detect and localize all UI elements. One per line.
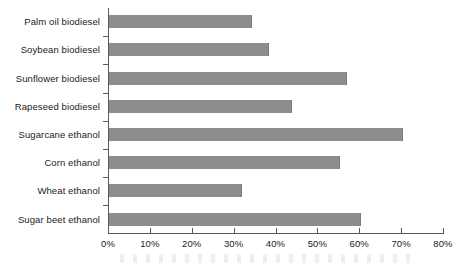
bar (108, 213, 361, 226)
bar (108, 43, 269, 56)
x-axis-tick-label: 50% (297, 238, 337, 249)
bar (108, 15, 252, 28)
bar (108, 184, 242, 197)
y-axis-tick (103, 121, 108, 122)
x-axis-tick (234, 228, 235, 234)
y-axis-line (108, 8, 109, 234)
x-axis-tick-label: 80% (423, 238, 457, 249)
x-axis-tick-label: 60% (339, 238, 379, 249)
x-axis-tick (359, 228, 360, 234)
x-axis-tick-label: 70% (381, 238, 421, 249)
y-axis-tick (103, 93, 108, 94)
category-label: Palm oil biodiesel (0, 16, 100, 27)
category-label: Soybean biodiesel (0, 44, 100, 55)
x-axis-tick-label: 40% (256, 238, 296, 249)
category-label: Sunflower biodiesel (0, 73, 100, 84)
bar (108, 156, 340, 169)
x-axis-tick (108, 228, 109, 234)
bar (108, 100, 292, 113)
y-axis-tick (103, 149, 108, 150)
category-axis: Palm oil biodieselSoybean biodieselSunfl… (0, 8, 104, 233)
x-axis-tick-label: 10% (130, 238, 170, 249)
category-label: Rapeseed biodiesel (0, 101, 100, 112)
x-axis-tick (401, 228, 402, 234)
y-axis-tick (103, 177, 108, 178)
category-label: Corn ethanol (0, 157, 100, 168)
category-label: Sugar beet ethanol (0, 214, 100, 225)
category-label: Sugarcane ethanol (0, 129, 100, 140)
x-axis-tick (276, 228, 277, 234)
x-axis-tick-label: 30% (214, 238, 254, 249)
x-axis-tick-label: 0% (88, 238, 128, 249)
y-axis-tick (103, 64, 108, 65)
category-label: Wheat ethanol (0, 185, 100, 196)
x-axis-tick-label: 20% (172, 238, 212, 249)
x-axis-tick (443, 228, 444, 234)
plot-area (108, 8, 443, 233)
x-axis-tick (192, 228, 193, 234)
bar (108, 128, 403, 141)
bar (108, 72, 347, 85)
scan-bleed-artifact (120, 254, 410, 263)
x-axis-tick (317, 228, 318, 234)
x-axis-tick (150, 228, 151, 234)
y-axis-tick (103, 205, 108, 206)
y-axis-tick (103, 36, 108, 37)
